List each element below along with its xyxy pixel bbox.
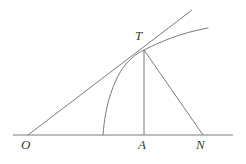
vertex-label-n: N [196, 138, 205, 151]
tangent-line-OT [28, 10, 192, 135]
vertex-label-t: T [135, 29, 142, 42]
vertex-label-a: A [138, 138, 146, 151]
geometry-canvas [0, 0, 246, 164]
geometry-figure: O A N T [0, 0, 246, 164]
vertex-label-o: O [21, 138, 30, 151]
normal-line-TN [144, 50, 203, 135]
